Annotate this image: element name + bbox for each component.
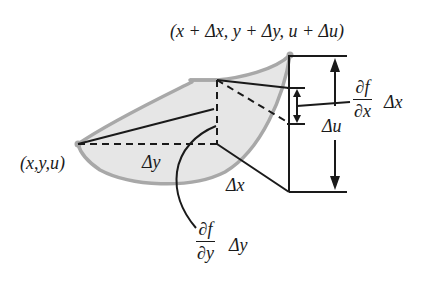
- fraction-bar: [196, 241, 215, 242]
- delta-x-label: Δx: [226, 176, 245, 194]
- partial-x-numerator: ∂f: [353, 78, 372, 96]
- partial-y-fraction: ∂f ∂y: [196, 220, 215, 262]
- partial-x-up-arrowhead: [293, 89, 301, 97]
- partial-x-suffix: Δx: [384, 93, 403, 111]
- delta-u-down-arrowhead: [330, 176, 340, 190]
- partial-y-suffix: Δy: [229, 236, 248, 254]
- partial-x-fraction: ∂f ∂x: [353, 78, 372, 120]
- partial-x-leader: [297, 102, 350, 106]
- start-point-label: (x,y,u): [20, 154, 65, 172]
- partial-y-numerator: ∂f: [196, 220, 215, 238]
- partial-x-down-arrowhead: [293, 115, 301, 123]
- partial-y-denominator: ∂y: [196, 244, 215, 262]
- delta-u-label: Δu: [322, 117, 342, 135]
- partial-x-denominator: ∂x: [353, 102, 372, 120]
- delta-y-label: Δy: [142, 153, 161, 171]
- surface-differential-diagram: [0, 0, 434, 294]
- fraction-bar: [353, 99, 372, 100]
- delta-u-up-arrowhead: [330, 58, 340, 72]
- surface-patch: [78, 55, 290, 184]
- end-point-label: (x + Δx, y + Δy, u + Δu): [170, 22, 344, 40]
